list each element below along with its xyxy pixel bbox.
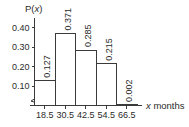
y-tick-label: 0.20 — [12, 62, 30, 72]
bar — [76, 50, 97, 105]
y-tick-label: 0.30 — [12, 42, 30, 52]
bar-value-label: 0.127 — [43, 55, 53, 78]
bar-value-label: 0.002 — [125, 79, 135, 102]
x-axis-title: x months — [145, 100, 185, 111]
bar — [117, 105, 138, 106]
x-tick-label: 30.5 — [56, 110, 74, 120]
y-axis-title: P(x) — [25, 3, 42, 14]
bar-value-label: 0.371 — [63, 8, 73, 31]
bar — [35, 81, 56, 106]
bar-value-label: 0.215 — [104, 38, 114, 61]
x-tick-label: 66.5 — [118, 110, 136, 120]
bar — [96, 64, 117, 106]
y-axis-ticks: 0.100.200.300.40 — [12, 23, 35, 91]
x-tick-label: 54.5 — [97, 110, 115, 120]
bar-value-label: 0.285 — [84, 25, 94, 48]
chart-canvas: P(x) 0.100.200.300.40 18.530.542.554.566… — [0, 0, 189, 127]
x-axis-ticks: 18.530.542.554.566.5 — [36, 106, 136, 120]
y-tick-label: 0.10 — [12, 81, 30, 91]
x-tick-label: 42.5 — [77, 110, 95, 120]
x-tick-label: 18.5 — [36, 110, 54, 120]
histogram-chart: P(x) 0.100.200.300.40 18.530.542.554.566… — [0, 0, 189, 127]
bar — [55, 33, 76, 105]
y-tick-label: 0.40 — [12, 23, 30, 33]
